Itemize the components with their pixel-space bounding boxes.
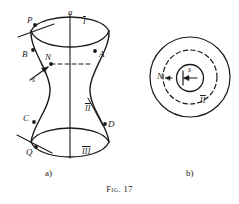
- label-point-A: A: [99, 50, 105, 59]
- point-Q: [34, 145, 38, 149]
- label-vector-s: s: [32, 76, 35, 84]
- left-generatrix: [31, 31, 50, 142]
- figure-caption-prefix: Fig.: [106, 184, 121, 194]
- point-B: [31, 48, 35, 52]
- point-P: [33, 23, 37, 27]
- label-point-Q: Q: [26, 148, 33, 157]
- label-axis-a: a: [68, 8, 73, 17]
- label-region-I: I: [83, 18, 86, 26]
- label-point-N-b: N: [157, 72, 163, 81]
- point-N-arrowhead-b: [166, 76, 171, 80]
- figure-caption-number: 17: [124, 184, 133, 194]
- label-point-P: P: [27, 16, 33, 25]
- label-vector-s-b: s: [188, 66, 191, 74]
- label-point-C: C: [23, 114, 29, 123]
- panel-label-b: b): [186, 168, 194, 178]
- point-D: [103, 122, 107, 126]
- point-N: [49, 62, 53, 66]
- dashed-middle-circle: [163, 50, 217, 104]
- figure-17: a P I A B N s II C D Q III N s II a) b) …: [0, 0, 239, 204]
- vector-s-arrowhead-b: [184, 76, 190, 81]
- point-A: [93, 49, 97, 53]
- label-region-III: III: [82, 148, 91, 156]
- figure-caption: Fig. 17: [0, 184, 239, 194]
- label-point-N: N: [45, 53, 51, 62]
- label-point-B: B: [22, 50, 28, 59]
- panel-label-a: a): [45, 168, 52, 178]
- label-point-D: D: [108, 120, 115, 129]
- label-region-II: II: [85, 105, 91, 113]
- point-C: [32, 120, 36, 124]
- label-region-II-b: II: [200, 97, 206, 105]
